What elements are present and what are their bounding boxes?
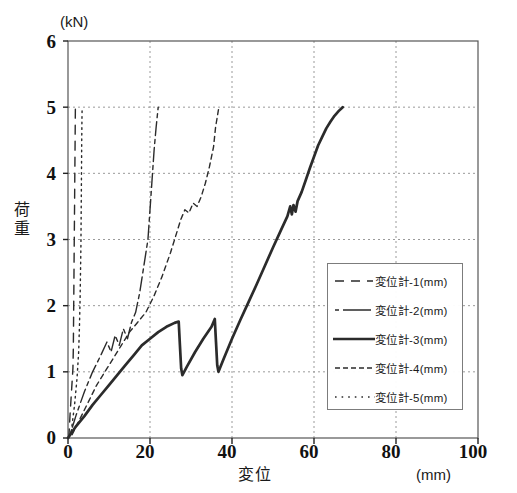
legend-label-3: 変位計-3(mm) (375, 331, 448, 347)
legend-line-sample-2 (333, 304, 375, 316)
legend-line-sample-5 (333, 391, 375, 403)
legend-item-3: 変位計-3(mm) (328, 324, 464, 353)
chart-legend: 変位計-1(mm) 変位計-2(mm) 変位計-3(mm) 変位計-4(mm) … (327, 263, 463, 410)
series-line-5 (71, 107, 82, 431)
series-line-4 (72, 107, 219, 435)
legend-label-4: 変位計-4(mm) (375, 360, 448, 376)
legend-item-2: 変位計-2(mm) (328, 295, 464, 324)
chart-container: (kN) (mm) 変位 荷 重 6 5 4 3 2 1 0 0 20 40 6… (0, 0, 517, 493)
series-line-2 (70, 107, 158, 435)
series-line-3 (68, 107, 343, 438)
plot-area (0, 0, 517, 493)
legend-line-sample-3 (333, 333, 375, 345)
legend-label-1: 変位計-1(mm) (375, 273, 448, 289)
series-line-1 (69, 107, 76, 438)
legend-line-sample-1 (333, 275, 375, 287)
legend-line-sample-4 (333, 362, 375, 374)
legend-item-4: 変位計-4(mm) (328, 353, 464, 382)
legend-label-5: 変位計-5(mm) (375, 389, 448, 405)
legend-item-5: 変位計-5(mm) (328, 382, 464, 411)
legend-label-2: 変位計-2(mm) (375, 302, 448, 318)
legend-item-1: 変位計-1(mm) (328, 266, 464, 295)
